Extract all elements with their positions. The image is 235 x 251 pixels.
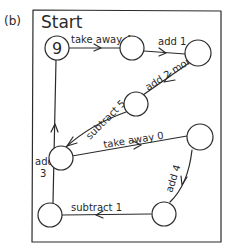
edge-label: subtract 1 (71, 202, 122, 213)
flow-diagram: (b) Start take away 4 add 1 add 2 more s… (0, 0, 235, 251)
node-6 (187, 124, 213, 150)
diagram-title: Start (41, 12, 83, 32)
node-value: 9 (52, 39, 62, 58)
node-3 (185, 40, 211, 66)
edge-add-1: add 1 (144, 36, 186, 56)
node-start: 9 (45, 36, 69, 60)
node-7 (152, 202, 176, 226)
edge-label: subtract 5 (84, 98, 128, 142)
edge-label-line2: 3 (40, 168, 46, 179)
panel-label: (b) (4, 14, 21, 28)
node-4 (124, 92, 148, 116)
edge-subtract-1: subtract 1 (62, 202, 151, 218)
node-8 (38, 203, 62, 227)
edge-label: add 1 (158, 36, 186, 47)
edge-add-4: add 4 (163, 150, 192, 202)
edge-add-3: add 3 (35, 60, 58, 203)
node-2 (120, 36, 144, 60)
node-5 (49, 146, 73, 170)
edge-label: take away 0 (103, 130, 165, 150)
